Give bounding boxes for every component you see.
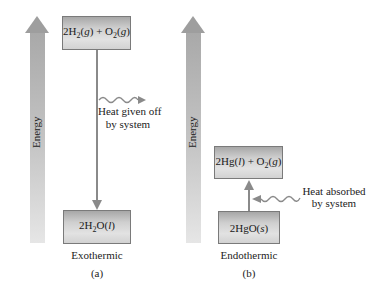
exothermic-label: Exothermic [71, 249, 122, 261]
reactant-box-hydrogen-oxygen: 2H2(g) + O2(g) [62, 16, 131, 50]
energy-arrow-head-icon [181, 16, 205, 33]
energy-axis-label: Energy [30, 116, 42, 148]
reactant-box-mercury-oxide: 2HgO(s) [218, 211, 280, 244]
heat-given-off-label: Heat given off by system [98, 105, 158, 131]
heat-absorbed-label: Heat absorbed by system [298, 185, 370, 209]
reactant-formula: 2HgO(s) [230, 222, 269, 234]
reaction-arrow-up [248, 189, 250, 211]
product-formula: 2H2O(l) [79, 219, 115, 234]
arrow-down-icon [92, 200, 102, 210]
panel-b-label: (b) [243, 267, 256, 279]
energy-arrow-head-icon [25, 16, 49, 33]
panel-a-label: (a) [91, 267, 103, 279]
product-box-water: 2H2O(l) [63, 210, 131, 244]
product-box-mercury-oxygen: 2Hg(l) + O2(g) [214, 146, 283, 179]
reactant-formula: 2H2(g) + O2(g) [63, 25, 130, 40]
endothermic-label: Endothermic [221, 249, 278, 261]
energy-axis-label: Energy [186, 116, 198, 148]
wavy-heat-arrow-in-icon [251, 192, 301, 206]
product-formula: 2Hg(l) + O2(g) [216, 155, 282, 170]
